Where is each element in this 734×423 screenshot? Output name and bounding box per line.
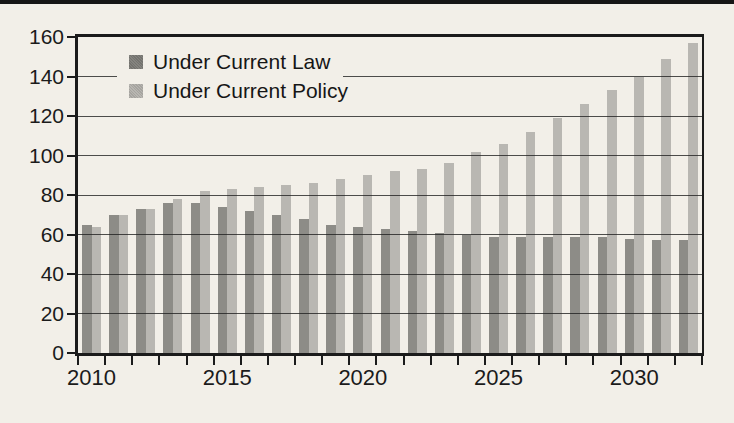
bar-under-current-law-2025 xyxy=(489,237,499,354)
y-axis-label-0: 0 xyxy=(12,342,64,364)
y-axis-label-60: 60 xyxy=(12,224,64,246)
bar-under-current-law-2019 xyxy=(326,225,336,353)
x-tick-2018 xyxy=(294,356,296,365)
bar-under-current-policy-2023 xyxy=(444,163,454,353)
y-axis-label-40: 40 xyxy=(12,263,64,285)
gridline-100 xyxy=(78,155,702,156)
chart-legend: Under Current LawUnder Current Policy xyxy=(117,45,343,108)
bar-under-current-policy-2026 xyxy=(526,132,536,353)
bar-under-current-policy-2017 xyxy=(281,185,291,353)
bar-under-current-policy-2016 xyxy=(254,187,264,353)
legend-swatch-icon xyxy=(129,55,143,69)
bar-under-current-policy-2018 xyxy=(309,183,319,353)
bar-under-current-policy-2025 xyxy=(499,144,509,353)
x-tick-2012 xyxy=(131,356,133,365)
x-tick-end xyxy=(701,356,703,365)
y-axis-label-120: 120 xyxy=(12,105,64,127)
x-tick-2013 xyxy=(158,356,160,365)
x-tick-2021 xyxy=(375,356,377,365)
gridline-40 xyxy=(78,274,702,275)
y-axis-label-160: 160 xyxy=(12,26,64,48)
x-axis-label-2020: 2020 xyxy=(325,366,401,389)
x-tick-2027 xyxy=(538,356,540,365)
y-axis-label-140: 140 xyxy=(12,66,64,88)
legend-item-under-current-law: Under Current Law xyxy=(129,47,343,76)
bar-under-current-law-2021 xyxy=(381,229,391,353)
x-tick-2024 xyxy=(457,356,459,365)
bar-under-current-policy-2014 xyxy=(200,191,210,353)
x-tick-2029 xyxy=(592,356,594,365)
bar-under-current-policy-2020 xyxy=(363,175,373,353)
y-tick-60 xyxy=(67,234,75,236)
gridline-120 xyxy=(78,116,702,117)
bar-under-current-law-2026 xyxy=(516,237,526,354)
y-axis-label-100: 100 xyxy=(12,145,64,167)
bar-under-current-policy-2028 xyxy=(580,104,590,353)
x-axis-label-2025: 2025 xyxy=(461,366,537,389)
x-tick-2026 xyxy=(511,356,513,365)
bar-under-current-law-2030 xyxy=(625,239,635,354)
bar-under-current-policy-2012 xyxy=(146,209,156,353)
y-tick-20 xyxy=(67,313,75,315)
bar-under-current-policy-2027 xyxy=(553,118,563,353)
bar-under-current-law-2012 xyxy=(136,209,146,353)
bar-under-current-policy-2030 xyxy=(634,77,644,354)
bar-under-current-law-2013 xyxy=(163,203,173,353)
x-tick-2017 xyxy=(267,356,269,365)
bar-under-current-law-2010 xyxy=(82,225,92,353)
bar-under-current-policy-2024 xyxy=(471,152,481,353)
x-tick-2032 xyxy=(674,356,676,365)
y-tick-100 xyxy=(67,155,75,157)
bar-under-current-policy-2010 xyxy=(92,227,102,353)
x-tick-2025 xyxy=(484,356,486,365)
y-tick-160 xyxy=(67,36,75,38)
x-tick-2028 xyxy=(565,356,567,365)
bar-under-current-law-2014 xyxy=(191,203,201,353)
x-tick-2015 xyxy=(213,356,215,365)
x-tick-2016 xyxy=(240,356,242,365)
y-axis-label-20: 20 xyxy=(12,303,64,325)
bar-under-current-policy-2022 xyxy=(417,169,427,353)
bar-under-current-law-2023 xyxy=(435,233,445,354)
x-axis-label-2015: 2015 xyxy=(189,366,265,389)
bar-under-current-policy-2032 xyxy=(688,43,698,353)
bar-under-current-law-2011 xyxy=(109,215,119,353)
x-tick-2031 xyxy=(647,356,649,365)
bar-under-current-law-2020 xyxy=(353,227,363,353)
y-tick-0 xyxy=(67,352,75,354)
y-tick-40 xyxy=(67,273,75,275)
x-tick-2030 xyxy=(620,356,622,365)
bar-under-current-law-2024 xyxy=(462,235,472,354)
x-tick-2019 xyxy=(321,356,323,365)
bar-chart: 0204060801001201401602010201520202025203… xyxy=(0,0,734,423)
bar-under-current-policy-2011 xyxy=(119,215,129,353)
bar-under-current-law-2015 xyxy=(218,207,228,353)
bar-under-current-law-2031 xyxy=(652,240,662,353)
legend-item-under-current-policy: Under Current Policy xyxy=(129,76,343,105)
bar-under-current-law-2016 xyxy=(245,211,255,353)
x-axis-label-2030: 2030 xyxy=(596,366,672,389)
legend-label: Under Current Policy xyxy=(153,79,348,103)
legend-label: Under Current Law xyxy=(153,50,330,74)
bar-under-current-policy-2021 xyxy=(390,171,400,353)
gridline-20 xyxy=(78,313,702,314)
gridline-60 xyxy=(78,234,702,235)
bar-under-current-law-2017 xyxy=(272,215,282,353)
bar-under-current-law-2029 xyxy=(598,237,608,354)
bar-under-current-policy-2015 xyxy=(227,189,237,353)
x-tick-2011 xyxy=(104,356,106,365)
legend-swatch-icon xyxy=(129,84,143,98)
bar-under-current-policy-2019 xyxy=(336,179,346,353)
x-tick-2010 xyxy=(77,356,79,365)
y-tick-140 xyxy=(67,76,75,78)
x-axis-label-2010: 2010 xyxy=(54,366,130,389)
bar-under-current-policy-2031 xyxy=(661,59,671,353)
y-tick-80 xyxy=(67,194,75,196)
bar-under-current-law-2032 xyxy=(679,240,689,353)
x-tick-2023 xyxy=(430,356,432,365)
bar-under-current-law-2018 xyxy=(299,219,309,353)
bar-under-current-law-2027 xyxy=(543,237,553,354)
x-tick-2020 xyxy=(348,356,350,365)
bar-under-current-policy-2013 xyxy=(173,199,183,353)
x-tick-2022 xyxy=(403,356,405,365)
